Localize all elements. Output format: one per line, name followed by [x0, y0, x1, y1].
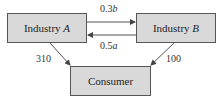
node-industry-a: Industry A [7, 13, 87, 43]
node-consumer-label: Consumer [88, 75, 133, 87]
edge-label-b-to-a: 0.5a [100, 40, 118, 51]
edge-label-b-to-consumer: 100 [166, 53, 181, 64]
node-industry-b-label: Industry B [153, 22, 199, 34]
node-industry-b: Industry B [136, 13, 216, 43]
node-industry-a-label: Industry A [24, 22, 70, 34]
edge-label-a-to-consumer: 310 [36, 53, 51, 64]
arrow-a-to-consumer [50, 43, 70, 65]
node-consumer: Consumer [70, 66, 151, 96]
edge-label-a-to-b: 0.3b [100, 3, 118, 14]
